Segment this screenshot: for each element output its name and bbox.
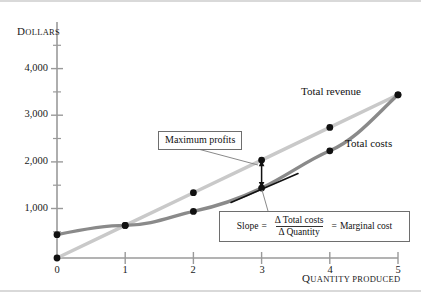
y-axis-title: DOLLARS <box>17 21 60 39</box>
x-axis-title-rest: UANTITY PRODUCED <box>310 274 400 284</box>
xtick-label-1: 1 <box>116 264 134 275</box>
economics-figure: 4,000 3,000 2,000 1,000 0 1 2 3 4 5 DOLL… <box>0 0 421 292</box>
ytick-label-1000: 1,000 <box>4 202 48 213</box>
slope-numerator: Δ Total costs <box>272 215 327 226</box>
xtick-label-2: 2 <box>184 264 202 275</box>
y-axis-title-rest: OLLARS <box>25 27 60 37</box>
maximum-profits-arrow <box>259 160 265 188</box>
slope-denominator: Δ Quantity <box>276 226 323 238</box>
series-label-total-revenue: Total revenue <box>301 85 361 97</box>
slope-formula-callout: Slope = Δ Total costs Δ Quantity = Margi… <box>219 211 410 242</box>
xtick-label-3: 3 <box>253 264 271 275</box>
x-axis-title: QUANTITY PRODUCED <box>302 268 400 286</box>
slope-marginal-cost: Marginal cost <box>340 221 392 232</box>
slope-equals-1: = <box>261 221 266 232</box>
ytick-label-3000: 3,000 <box>4 108 48 119</box>
maximum-profits-callout: Maximum profits <box>158 131 242 150</box>
slope-fraction: Δ Total costs Δ Quantity <box>272 215 327 238</box>
slope-word: Slope <box>237 221 259 232</box>
xtick-label-0: 0 <box>48 264 66 275</box>
y-axis-title-initial: D <box>17 25 25 37</box>
slope-equals-2: = <box>332 221 337 232</box>
maximum-profits-leader <box>198 149 258 165</box>
x-axis-title-initial: Q <box>302 272 310 284</box>
series-label-total-costs: Total costs <box>345 137 392 149</box>
ytick-label-4000: 4,000 <box>4 62 48 73</box>
slope-box-leader <box>262 190 268 211</box>
ytick-label-2000: 2,000 <box>4 155 48 166</box>
